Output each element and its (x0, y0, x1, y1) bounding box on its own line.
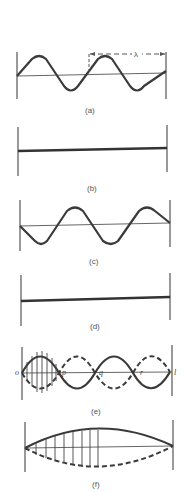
axis-line (25, 446, 173, 448)
panel-label-c: (c) (89, 257, 99, 266)
point-l: l (174, 368, 177, 377)
panel-label-d: (d) (90, 322, 100, 331)
axis-line (17, 73, 166, 76)
panel-e: o p q r l (e) (15, 345, 177, 416)
panel-c: (c) (20, 200, 170, 266)
panel-d: (d) (21, 273, 170, 331)
displacement-arrows (36, 430, 98, 467)
axis-line (20, 223, 170, 226)
panel-a: λ (a) (17, 48, 166, 115)
flat-string (21, 297, 170, 301)
flat-string (18, 148, 167, 151)
panel-label-b: (b) (87, 184, 97, 193)
panel-label-a: (a) (85, 106, 95, 115)
point-q: q (99, 368, 103, 377)
panel-label-e: (e) (91, 407, 101, 416)
panel-b: (b) (18, 125, 167, 193)
point-o: o (15, 368, 19, 377)
solid-wave (25, 428, 173, 448)
panel-f: (f) (25, 420, 173, 489)
standing-wave-figure: λ (a) (b) (c) (d) (0, 0, 185, 492)
arrowhead-right-icon (160, 52, 165, 56)
arrowhead-left-icon (90, 52, 95, 56)
dashed-wave (25, 446, 173, 467)
panel-label-f: (f) (92, 480, 100, 489)
wavelength-symbol: λ (134, 50, 138, 59)
axis-line (22, 372, 172, 373)
point-p: p (61, 368, 66, 377)
